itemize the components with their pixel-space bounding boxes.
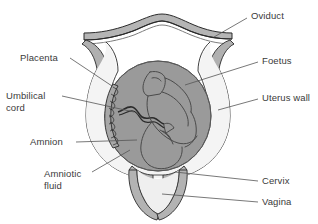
amniotic-sac — [105, 61, 211, 171]
anatomical-diagram: OviductPlacentaFoetusUmbilical cordUteru… — [0, 0, 318, 224]
label-oviduct: Oviduct — [251, 10, 284, 22]
label-uterus-wall: Uterus wall — [262, 92, 310, 104]
label-amnion: Amnion — [30, 136, 63, 148]
label-amniotic-fluid: Amniotic fluid — [44, 168, 81, 191]
label-foetus: Foetus — [262, 55, 292, 67]
label-vagina: Vagina — [262, 196, 291, 208]
amniotic-sac-group — [105, 61, 211, 171]
label-cervix: Cervix — [262, 175, 290, 187]
fundus-band-group — [82, 14, 234, 44]
label-placenta: Placenta — [20, 52, 58, 64]
label-umbilical-cord: Umbilical cord — [6, 90, 45, 113]
oviduct-band — [84, 14, 232, 40]
